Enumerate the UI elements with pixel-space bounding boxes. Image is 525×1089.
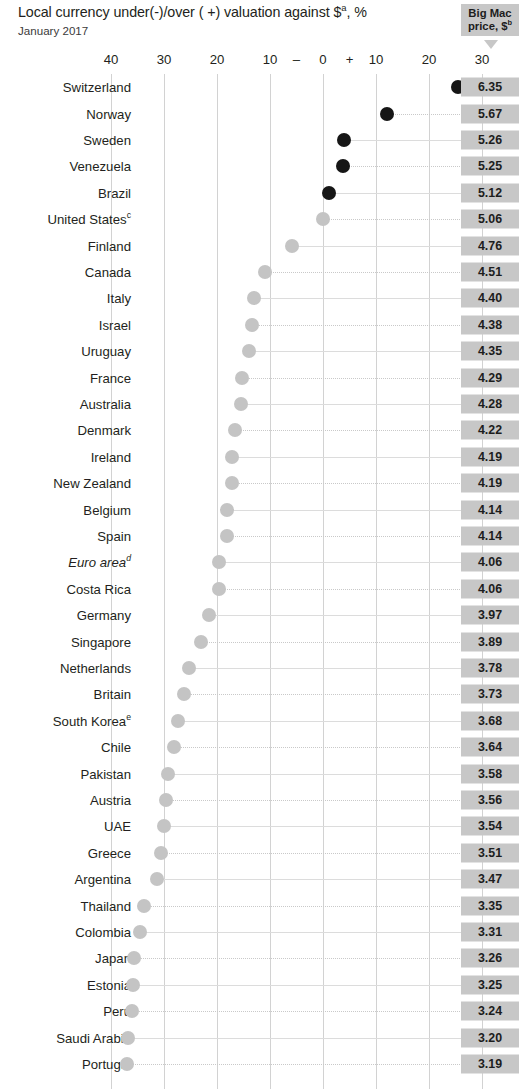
chart-row[interactable]: Britain3.73	[0, 681, 525, 707]
data-point-dot[interactable]	[212, 582, 226, 596]
chart-row[interactable]: Belgium4.14	[0, 496, 525, 522]
chart-row[interactable]: Israel4.38	[0, 312, 525, 338]
big-mac-price-badge: 4.22	[461, 421, 519, 440]
chart-row[interactable]: Thailand3.35	[0, 892, 525, 918]
x-axis-tick-30: 30	[157, 52, 172, 67]
chart-row[interactable]: Costa Rica4.06	[0, 576, 525, 602]
data-point-dot[interactable]	[242, 344, 256, 358]
country-label: Argentina	[75, 872, 131, 887]
chart-row[interactable]: Switzerland6.35	[0, 74, 525, 100]
chart-row[interactable]: Italy4.40	[0, 285, 525, 311]
big-mac-price-badge: 3.26	[461, 949, 519, 968]
data-point-dot[interactable]	[202, 608, 216, 622]
big-mac-price-badge: 4.76	[461, 236, 519, 255]
chart-row[interactable]: Portugal3.19	[0, 1051, 525, 1077]
chart-row[interactable]: Denmark4.22	[0, 417, 525, 443]
chart-row[interactable]: New Zealand4.19	[0, 470, 525, 496]
data-point-dot[interactable]	[336, 159, 350, 173]
chart-row[interactable]: Uruguay4.35	[0, 338, 525, 364]
big-mac-price-badge: 3.19	[461, 1054, 519, 1073]
data-point-dot[interactable]	[177, 687, 191, 701]
data-point-dot[interactable]	[245, 318, 259, 332]
data-point-dot[interactable]	[159, 793, 173, 807]
data-point-dot[interactable]	[220, 529, 234, 543]
country-label-cell: UAE	[0, 813, 131, 839]
chart-row[interactable]: Argentina3.47	[0, 866, 525, 892]
data-point-dot[interactable]	[150, 872, 164, 886]
chart-row[interactable]: Brazil5.12	[0, 180, 525, 206]
data-point-dot[interactable]	[167, 740, 181, 754]
data-point-dot[interactable]	[121, 1031, 135, 1045]
chart-row[interactable]: Pakistan3.58	[0, 760, 525, 786]
data-point-dot[interactable]	[225, 476, 239, 490]
x-axis-tick-0: 0	[319, 52, 326, 67]
data-point-dot[interactable]	[161, 767, 175, 781]
chart-row[interactable]: Chile3.64	[0, 734, 525, 760]
chart-row[interactable]: Greece3.51	[0, 840, 525, 866]
big-mac-price-badge: 5.67	[461, 104, 519, 123]
country-label-cell: Sweden	[0, 127, 131, 153]
chart-row[interactable]: Venezuela5.25	[0, 153, 525, 179]
country-label-cell: Colombia	[0, 919, 131, 945]
chart-row[interactable]: Euro aread4.06	[0, 549, 525, 575]
data-point-dot[interactable]	[322, 186, 336, 200]
data-point-dot[interactable]	[380, 107, 394, 121]
data-point-dot[interactable]	[127, 951, 141, 965]
chart-row[interactable]: Australia4.28	[0, 391, 525, 417]
row-connector-line	[134, 958, 494, 959]
row-connector-line	[178, 721, 494, 722]
row-connector-line	[219, 562, 494, 563]
chart-row[interactable]: Norway5.67	[0, 100, 525, 126]
data-point-dot[interactable]	[120, 1057, 134, 1071]
data-point-dot[interactable]	[235, 371, 249, 385]
chart-row[interactable]: Peru3.24	[0, 998, 525, 1024]
chart-row[interactable]: Singapore3.89	[0, 628, 525, 654]
data-point-dot[interactable]	[171, 714, 185, 728]
chart-row[interactable]: Canada4.51	[0, 259, 525, 285]
big-mac-price-badge: 5.25	[461, 157, 519, 176]
data-point-dot[interactable]	[234, 397, 248, 411]
chart-row[interactable]: UAE3.54	[0, 813, 525, 839]
chart-row[interactable]: France4.29	[0, 364, 525, 390]
chart-row[interactable]: Japan3.26	[0, 945, 525, 971]
data-point-dot[interactable]	[258, 265, 272, 279]
country-name: Sweden	[83, 132, 131, 147]
data-point-dot[interactable]	[154, 846, 168, 860]
chart-row[interactable]: Saudi Arabia3.20	[0, 1024, 525, 1050]
data-point-dot[interactable]	[285, 239, 299, 253]
chart-row[interactable]: Netherlands3.78	[0, 655, 525, 681]
chart-row[interactable]: Ireland4.19	[0, 444, 525, 470]
data-point-dot[interactable]	[133, 925, 147, 939]
data-point-dot[interactable]	[137, 899, 151, 913]
big-mac-price-badge: 4.28	[461, 394, 519, 413]
chart-row[interactable]: Finland4.76	[0, 232, 525, 258]
chart-row[interactable]: South Koreae3.68	[0, 708, 525, 734]
data-point-dot[interactable]	[157, 819, 171, 833]
data-point-dot[interactable]	[247, 291, 261, 305]
country-label-cell: Portugal	[0, 1051, 131, 1077]
country-label: Italy	[107, 291, 131, 306]
data-point-dot[interactable]	[194, 635, 208, 649]
x-axis-tick-20: 20	[210, 52, 225, 67]
data-point-dot[interactable]	[212, 555, 226, 569]
chart-row[interactable]: Austria3.56	[0, 787, 525, 813]
chart-row[interactable]: Sweden5.26	[0, 127, 525, 153]
chart-row[interactable]: Colombia3.31	[0, 919, 525, 945]
data-point-dot[interactable]	[228, 423, 242, 437]
chart-row[interactable]: United Statesc5.06	[0, 206, 525, 232]
chart-row[interactable]: Germany3.97	[0, 602, 525, 628]
data-point-dot[interactable]	[225, 450, 239, 464]
data-point-dot[interactable]	[182, 661, 196, 675]
chart-row[interactable]: Estonia3.25	[0, 972, 525, 998]
country-label-cell: New Zealand	[0, 470, 131, 496]
data-point-dot[interactable]	[337, 133, 351, 147]
page-title-suffix: , %	[346, 4, 366, 20]
data-point-dot[interactable]	[316, 212, 330, 226]
country-name: New Zealand	[53, 476, 131, 491]
data-point-dot[interactable]	[125, 1004, 139, 1018]
data-point-dot[interactable]	[126, 978, 140, 992]
data-point-dot[interactable]	[220, 503, 234, 517]
big-mac-price-badge: 3.24	[461, 1002, 519, 1021]
chart-row[interactable]: Spain4.14	[0, 523, 525, 549]
country-label: Sweden	[83, 132, 131, 147]
